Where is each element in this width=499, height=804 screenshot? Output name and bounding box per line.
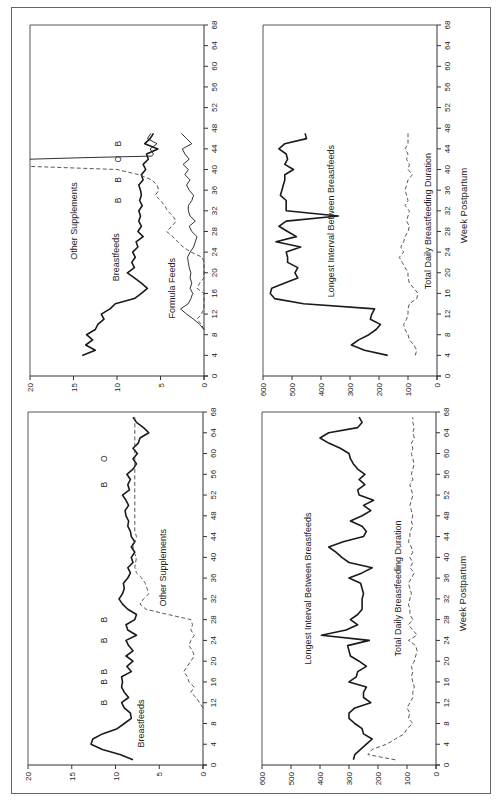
event-marker-label: B: [99, 637, 109, 643]
week-tick-label: 40: [209, 552, 218, 561]
week-tick-label: 40: [210, 165, 219, 174]
week-tick-label: 48: [443, 123, 452, 132]
week-tick-label: 48: [209, 511, 218, 520]
event-marker-label: B: [99, 616, 109, 622]
event-marker-label: B: [99, 679, 109, 685]
week-tick-label: 52: [209, 490, 218, 499]
week-tick-label: 8: [209, 721, 218, 726]
week-tick-label: 56: [210, 82, 219, 91]
event-marker-label: B: [113, 197, 123, 203]
week-tick-label: 64: [442, 428, 451, 437]
week-tick-label: 28: [210, 226, 219, 235]
week-tick-label: 60: [209, 449, 218, 458]
series-annotation: Longest Interval Between Breastfeeds: [303, 512, 313, 665]
series-longest-interval-between-breastfeeds: [320, 417, 374, 760]
week-tick-label: 68: [442, 407, 451, 416]
value-tick-label: 300: [346, 382, 355, 396]
week-tick-label: 4: [442, 741, 451, 746]
value-tick-label: 500: [287, 771, 296, 785]
week-tick-label: 36: [442, 573, 451, 582]
week-tick-label: 48: [210, 123, 219, 132]
value-tick-label: 20: [26, 382, 35, 391]
series-annotation: Longest Interval Between Breastfeeds: [326, 145, 336, 298]
week-tick-label: 36: [210, 185, 219, 194]
value-tick-label: 0: [433, 382, 442, 387]
week-tick-label: 32: [210, 206, 219, 215]
week-tick-label: 20: [443, 268, 452, 277]
week-tick-label: 36: [443, 185, 452, 194]
outer-frame: [12, 8, 491, 794]
panel-top-left-feeds: 0510152004812162024283236404448525660646…: [26, 20, 219, 392]
week-tick-label: 36: [209, 573, 218, 582]
week-tick-label: 12: [443, 309, 452, 318]
value-tick-label: 200: [374, 771, 383, 785]
week-tick-label: 52: [443, 103, 452, 112]
week-tick-label: 32: [443, 206, 452, 215]
week-tick-label: 28: [442, 615, 451, 624]
panel-top-right-durations: 0100200300400500600048121620242832364044…: [259, 20, 469, 396]
week-tick-label: 64: [209, 428, 218, 437]
week-tick-label: 64: [443, 41, 452, 50]
week-tick-label: 32: [442, 594, 451, 603]
week-tick-label: 40: [442, 552, 451, 561]
event-marker-label: O: [99, 455, 109, 462]
value-tick-label: 400: [316, 771, 325, 785]
value-tick-label: 300: [345, 771, 354, 785]
value-tick-label: 100: [404, 382, 413, 396]
week-tick-label: 56: [209, 469, 218, 478]
week-tick-label: 20: [442, 656, 451, 665]
series-annotation: Formula Feeds: [167, 258, 177, 319]
week-tick-label: 60: [210, 61, 219, 70]
value-tick-label: 200: [375, 382, 384, 396]
week-tick-label: 4: [210, 353, 219, 358]
plot-frame: [28, 412, 203, 765]
week-tick-label: 4: [209, 741, 218, 746]
week-tick-label: 60: [443, 61, 452, 70]
week-tick-label: 52: [210, 103, 219, 112]
plot-frame: [263, 25, 437, 376]
value-tick-label: 5: [155, 771, 164, 776]
event-marker-label: B: [113, 141, 123, 147]
week-axis-title: Week Postpartum: [457, 556, 468, 631]
week-tick-label: 68: [443, 20, 452, 29]
event-marker-label: B: [99, 482, 109, 488]
panel-bottom-left-feeds: 0510152004812162024283236404448525660646…: [24, 407, 218, 781]
week-tick-label: 68: [210, 20, 219, 29]
week-tick-label: 20: [210, 268, 219, 277]
week-tick-label: 0: [443, 373, 452, 378]
week-tick-label: 16: [209, 677, 218, 686]
series-annotation: Breastfeeds: [111, 233, 121, 282]
week-tick-label: 44: [443, 144, 452, 153]
series-annotation: Other Supplements: [69, 182, 79, 260]
week-tick-label: 12: [442, 698, 451, 707]
series-annotation: Breastfeeds: [136, 699, 146, 748]
value-tick-label: 600: [258, 771, 267, 785]
series-total-daily-breastfeeding-duration: [399, 133, 418, 355]
event-marker-label: B: [99, 668, 109, 674]
series-annotation: Total Daily Breastfeeding Duration: [423, 153, 433, 289]
value-tick-label: 0: [200, 382, 209, 387]
week-tick-label: 8: [210, 332, 219, 337]
week-tick-label: 52: [442, 490, 451, 499]
week-tick-label: 44: [210, 144, 219, 153]
week-tick-label: 24: [442, 635, 451, 644]
week-axis-title: Week Postpartum: [458, 168, 469, 243]
week-tick-label: 28: [443, 226, 452, 235]
figure-canvas: 0510152004812162024283236404448525660646…: [0, 0, 499, 804]
panel-bottom-right-durations: 0100200300400500600048121620242832364044…: [258, 407, 468, 785]
week-tick-label: 68: [209, 407, 218, 416]
week-tick-label: 24: [209, 635, 218, 644]
week-tick-label: 0: [442, 762, 451, 767]
value-tick-label: 10: [113, 382, 122, 391]
week-tick-label: 32: [209, 594, 218, 603]
week-tick-label: 56: [443, 82, 452, 91]
value-tick-label: 0: [432, 771, 441, 776]
week-tick-label: 24: [210, 247, 219, 256]
week-tick-label: 44: [442, 532, 451, 541]
value-tick-label: 100: [403, 771, 412, 785]
value-tick-label: 20: [24, 771, 33, 780]
week-tick-label: 8: [442, 721, 451, 726]
week-tick-label: 28: [209, 615, 218, 624]
series-annotation: Total Daily Breastfeeding Duration: [393, 520, 403, 656]
value-tick-label: 5: [157, 382, 166, 387]
